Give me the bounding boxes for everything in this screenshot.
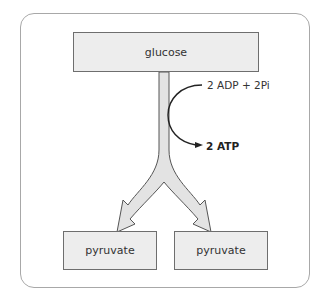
pyruvate-label-left: pyruvate	[85, 244, 134, 257]
pyruvate-box-right: pyruvate	[174, 231, 268, 270]
pyruvate-label-right: pyruvate	[196, 244, 245, 257]
atp-output-label: 2 ATP	[206, 140, 239, 152]
arrowhead-icon	[195, 142, 203, 148]
glucose-label: glucose	[145, 46, 187, 59]
energy-curve-arrow	[168, 85, 202, 145]
glucose-box: glucose	[73, 32, 259, 72]
adp-input-label: 2 ADP + 2Pi	[207, 79, 270, 91]
pyruvate-box-left: pyruvate	[63, 231, 157, 270]
split-arrow	[117, 72, 211, 232]
